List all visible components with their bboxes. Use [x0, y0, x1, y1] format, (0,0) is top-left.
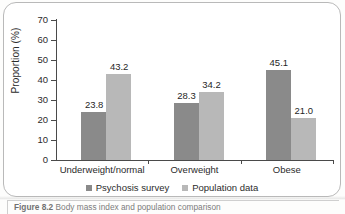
bar-group: 45.121.0: [266, 20, 316, 160]
x-category-separator: [148, 160, 149, 164]
bar-value-label: 34.2: [192, 80, 232, 90]
bar-group: 23.843.2: [81, 20, 131, 160]
figure-caption-title: Body mass index and population compariso…: [53, 202, 220, 212]
figure-caption-box: Figure 8.2 Body mass index and populatio…: [7, 200, 339, 214]
x-category-separator: [241, 160, 242, 164]
x-axis-end-tick: [333, 160, 334, 164]
plot-area: 23.843.228.334.245.121.0: [56, 20, 333, 160]
x-axis-line: [56, 160, 334, 161]
legend-swatch: [86, 185, 92, 191]
y-tick-label: 40: [24, 75, 48, 84]
x-category-label: Overweight: [148, 164, 240, 175]
y-tick-label: 30: [24, 95, 48, 104]
bar: [174, 103, 199, 160]
figure-caption-number: Figure 8.2: [14, 202, 53, 212]
bar-value-label: 21.0: [284, 106, 324, 116]
legend-swatch: [182, 185, 188, 191]
x-category-label: Underweight/normal: [56, 164, 148, 175]
figure-panel: 010203040506070 Proportion (%) 23.843.22…: [3, 2, 341, 197]
chart-legend: Psychosis surveyPopulation data: [4, 183, 340, 193]
scanned-page: 010203040506070 Proportion (%) 23.843.22…: [0, 0, 345, 214]
y-tick-label: 0: [24, 155, 48, 164]
bar-value-label: 45.1: [259, 58, 299, 68]
bar-value-label: 43.2: [99, 62, 139, 72]
y-tick-label: 20: [24, 115, 48, 124]
bar-group: 28.334.2: [174, 20, 224, 160]
y-axis-title: Proportion (%): [10, 0, 21, 126]
legend-label: Population data: [192, 183, 258, 193]
legend-label: Psychosis survey: [96, 183, 169, 193]
y-tick-label: 60: [24, 35, 48, 44]
y-tick-mark: [51, 160, 56, 161]
bar: [81, 112, 106, 160]
legend-item: Psychosis survey: [86, 183, 169, 193]
figure-caption: Figure 8.2 Body mass index and populatio…: [14, 202, 221, 212]
y-tick-label: 10: [24, 135, 48, 144]
legend-item: Population data: [182, 183, 258, 193]
bar: [291, 118, 316, 160]
y-tick-label: 70: [24, 15, 48, 24]
y-tick-label: 50: [24, 55, 48, 64]
x-category-label: Obese: [241, 164, 333, 175]
bar: [199, 92, 224, 160]
bar: [106, 74, 131, 160]
